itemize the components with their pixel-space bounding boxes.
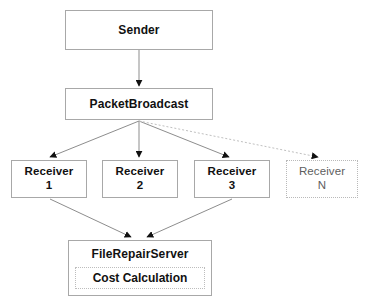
node-receiver-n-label-line1: Receiver (299, 165, 345, 179)
edge-receiver-1-to-file-repair-server (50, 199, 131, 237)
node-packet-broadcast-label: PacketBroadcast (90, 97, 189, 111)
node-file-repair-server[interactable]: FileRepairServer Cost Calculation (68, 240, 212, 296)
node-sender[interactable]: Sender (65, 10, 213, 50)
node-receiver-3[interactable]: Receiver 3 (194, 160, 270, 198)
node-receiver-3-label-line2: 3 (229, 179, 236, 193)
node-sender-label: Sender (118, 23, 159, 37)
node-cost-calculation-label: Cost Calculation (93, 271, 188, 285)
diagram-canvas: Sender PacketBroadcast Receiver 1 Receiv… (0, 0, 369, 302)
node-receiver-2[interactable]: Receiver 2 (102, 160, 178, 198)
edge-broadcast-to-receiver-n (139, 121, 318, 157)
edge-broadcast-to-receiver-3 (139, 121, 229, 157)
node-receiver-n[interactable]: Receiver N (286, 160, 358, 198)
node-cost-calculation[interactable]: Cost Calculation (75, 267, 205, 289)
node-file-repair-server-label: FileRepairServer (92, 247, 189, 261)
node-packet-broadcast[interactable]: PacketBroadcast (65, 88, 213, 120)
node-receiver-2-label-line2: 2 (137, 179, 144, 193)
edge-broadcast-to-receiver-1 (50, 121, 139, 157)
node-receiver-n-label-line2: N (318, 179, 326, 193)
edge-receiver-3-to-file-repair-server (147, 199, 232, 237)
node-receiver-3-label-line1: Receiver (208, 165, 257, 179)
node-receiver-1-label-line1: Receiver (25, 165, 74, 179)
node-receiver-1-label-line2: 1 (46, 179, 53, 193)
node-receiver-1[interactable]: Receiver 1 (11, 160, 87, 198)
node-receiver-2-label-line1: Receiver (116, 165, 165, 179)
